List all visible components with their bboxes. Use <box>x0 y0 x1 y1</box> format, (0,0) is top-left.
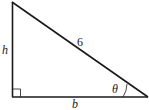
hypotenuse-side <box>12 2 148 97</box>
height-label: h <box>2 43 8 57</box>
angle-arc <box>123 84 127 97</box>
right-angle-marker <box>13 89 21 97</box>
right-triangle-diagram: h 6 b θ <box>0 0 149 110</box>
hypotenuse-label: 6 <box>77 35 83 49</box>
angle-label: θ <box>112 82 118 96</box>
base-label: b <box>72 97 78 110</box>
triangle <box>12 2 148 97</box>
